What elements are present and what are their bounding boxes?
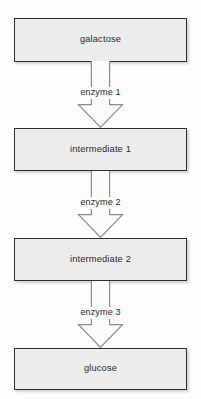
arrow-enzyme-3: enzyme 3 (74, 281, 127, 349)
arrow-enzyme-3-label: enzyme 3 (77, 307, 123, 319)
node-galactose-label: galactose (80, 35, 121, 44)
node-glucose-label: glucose (84, 364, 117, 373)
arrow-enzyme-2: enzyme 2 (74, 171, 127, 239)
node-glucose[interactable]: glucose (14, 348, 187, 390)
node-intermediate-2-label: intermediate 2 (70, 255, 131, 264)
pathway-diagram: galactose enzyme 1 intermediate 1 enzyme… (0, 0, 201, 399)
node-intermediate-2[interactable]: intermediate 2 (14, 238, 187, 281)
arrow-enzyme-1: enzyme 1 (74, 61, 127, 129)
node-galactose[interactable]: galactose (14, 18, 187, 62)
node-intermediate-1-label: intermediate 1 (70, 145, 131, 154)
arrow-enzyme-2-label: enzyme 2 (77, 197, 123, 209)
arrow-enzyme-1-label: enzyme 1 (77, 87, 123, 99)
node-intermediate-1[interactable]: intermediate 1 (14, 128, 187, 171)
